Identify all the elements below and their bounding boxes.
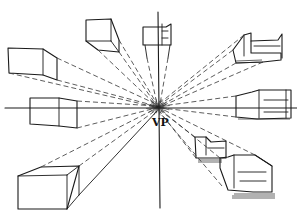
sofa-horizon-right [162, 90, 291, 119]
chair-lower-right-front [160, 109, 275, 198]
perspective-drawing: VP [0, 0, 297, 219]
box-top-center [86, 19, 157, 106]
sofa-upper-right [160, 33, 282, 106]
vp-rays [146, 99, 170, 116]
box-lower-left [18, 109, 157, 209]
vp-label: VP [151, 116, 169, 129]
